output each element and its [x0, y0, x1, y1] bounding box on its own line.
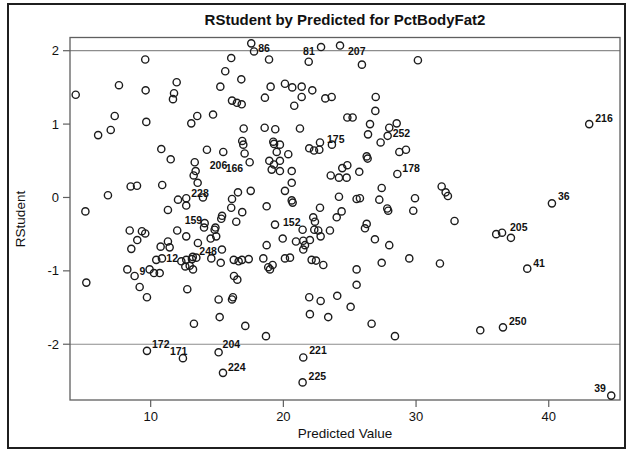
data-point	[111, 112, 118, 119]
data-point	[391, 333, 398, 340]
data-point	[217, 83, 224, 90]
data-point	[159, 181, 166, 188]
data-point	[335, 193, 342, 200]
data-point	[288, 167, 295, 174]
point-label: 152	[283, 216, 301, 228]
data-point	[164, 206, 171, 213]
data-point	[262, 333, 269, 340]
data-point	[384, 132, 391, 139]
data-point	[183, 233, 190, 240]
point-label: 41	[533, 257, 545, 269]
point-label: 204	[223, 338, 241, 350]
point-label: 225	[309, 370, 327, 382]
data-point	[143, 294, 150, 301]
data-point	[190, 320, 197, 327]
data-point	[309, 87, 316, 94]
data-point	[300, 246, 307, 253]
data-point	[261, 124, 268, 131]
point-label: 86	[258, 42, 270, 54]
data-point	[305, 58, 312, 65]
data-point	[233, 218, 240, 225]
screenshot-root: RStudent by Predicted for PctBodyFat2 RS…	[0, 0, 634, 462]
point-label: 172	[152, 338, 170, 350]
y-axis-label: RStudent	[13, 191, 28, 248]
data-point	[178, 258, 185, 265]
data-point	[190, 172, 197, 179]
data-point	[524, 265, 531, 272]
data-point	[124, 266, 131, 273]
data-point	[299, 379, 306, 386]
data-point	[296, 125, 303, 132]
data-point	[507, 234, 514, 241]
x-tick-label: 30	[409, 409, 423, 424]
data-point	[410, 207, 417, 214]
data-point	[234, 189, 241, 196]
data-point	[394, 170, 401, 177]
data-point	[312, 257, 319, 264]
data-point	[246, 159, 253, 166]
y-tick-label: -1	[47, 263, 59, 278]
data-point	[174, 227, 181, 234]
data-point	[115, 82, 122, 89]
point-label: 166	[226, 162, 244, 174]
data-point	[335, 174, 342, 181]
data-point	[240, 125, 247, 132]
data-point	[263, 242, 270, 249]
data-point	[191, 159, 198, 166]
data-point	[386, 242, 393, 249]
data-point	[451, 217, 458, 224]
data-point	[281, 187, 288, 194]
data-point	[242, 322, 249, 329]
data-point	[411, 195, 418, 202]
point-label: 159	[185, 214, 203, 226]
data-point	[194, 112, 201, 119]
data-point	[128, 245, 135, 252]
data-point	[326, 227, 333, 234]
data-point	[361, 225, 368, 232]
data-point	[228, 204, 235, 211]
data-point	[310, 214, 317, 221]
point-label: 224	[228, 361, 246, 373]
data-point	[325, 313, 332, 320]
data-point	[499, 324, 506, 331]
data-point	[82, 208, 89, 215]
x-axis-label: Predicted Value	[298, 426, 392, 441]
data-point	[142, 87, 149, 94]
point-label: 248	[199, 245, 217, 257]
data-point	[300, 354, 307, 361]
data-point	[260, 255, 267, 262]
y-tick-label: 1	[52, 117, 59, 132]
data-point	[183, 195, 190, 202]
data-point	[316, 139, 323, 146]
data-point	[271, 221, 278, 228]
data-point	[316, 146, 323, 153]
data-point	[247, 187, 254, 194]
point-label: 12	[166, 252, 178, 264]
data-point	[217, 259, 224, 266]
data-point	[239, 209, 246, 216]
data-point	[272, 126, 279, 133]
data-point	[134, 236, 141, 243]
data-point	[158, 145, 165, 152]
data-point	[219, 369, 226, 376]
data-point	[327, 172, 334, 179]
point-label: 178	[402, 162, 420, 174]
data-point	[285, 151, 292, 158]
data-point	[358, 61, 365, 68]
data-point	[192, 167, 199, 174]
point-label: 39	[594, 382, 606, 394]
data-point	[317, 43, 324, 50]
data-point	[222, 68, 229, 75]
data-point	[238, 101, 245, 108]
data-point	[216, 313, 223, 320]
point-label: 252	[393, 127, 411, 139]
data-point	[131, 272, 138, 279]
point-label: 207	[348, 45, 366, 57]
data-point	[366, 120, 373, 127]
data-point	[245, 256, 252, 263]
data-point	[334, 292, 341, 299]
data-point	[173, 79, 180, 86]
data-point	[378, 184, 385, 191]
point-label: 250	[509, 315, 527, 327]
x-tick-label: 10	[143, 409, 157, 424]
